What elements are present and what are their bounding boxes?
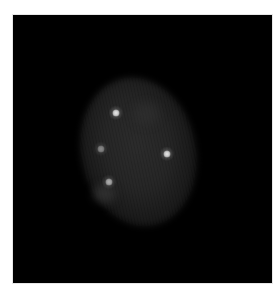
nucleus-bright-region [133,103,159,125]
figure-canvas [0,0,280,289]
micrograph-frame [13,15,272,283]
fluorescent-spot [98,146,105,153]
fluorescent-spot [106,179,113,186]
nucleus-texture [67,67,211,238]
fluorescent-spot [113,110,120,117]
fluorescent-spot [164,151,171,158]
